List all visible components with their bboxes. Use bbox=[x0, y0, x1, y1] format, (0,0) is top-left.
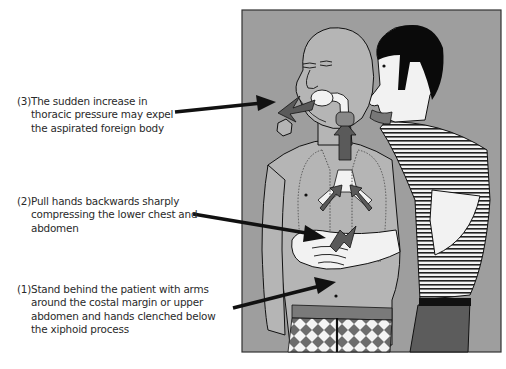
step-1-label: (1)Stand behind the patient with arms ar… bbox=[17, 283, 216, 337]
step-3-label: (3)The sudden increase in thoracic press… bbox=[17, 95, 173, 135]
step-3-number: (3) bbox=[17, 95, 31, 108]
step-2-label: (2)Pull hands backwards sharply compress… bbox=[17, 195, 197, 235]
airway-block bbox=[336, 112, 354, 126]
step-1-number: (1) bbox=[17, 283, 31, 296]
step-2-number: (2) bbox=[17, 195, 31, 208]
